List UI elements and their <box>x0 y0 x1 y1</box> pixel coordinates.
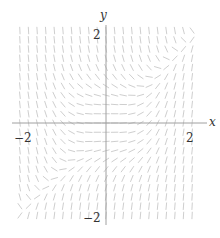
slope-segment <box>54 37 55 44</box>
slope-segment <box>129 149 135 152</box>
slope-segment <box>45 74 47 80</box>
slope-segment <box>69 140 75 143</box>
slope-segment <box>79 185 81 191</box>
y-axis-label: y <box>100 9 107 21</box>
slope-segment <box>172 47 177 51</box>
slope-segment <box>88 46 89 52</box>
slope-segment <box>45 37 46 44</box>
slope-segment <box>87 167 91 172</box>
slope-segment <box>70 176 73 182</box>
slope-segment <box>87 65 90 71</box>
slope-segment <box>114 212 115 219</box>
slope-segment <box>148 46 150 52</box>
slope-segment <box>130 74 135 79</box>
slope-segment <box>19 194 21 200</box>
slope-segment <box>71 203 72 210</box>
slope-segment <box>51 178 57 180</box>
x-axis-label: x <box>209 116 216 128</box>
slope-segment <box>140 46 141 52</box>
slope-segment <box>36 203 38 209</box>
slope-segment <box>173 56 178 61</box>
slope-segment <box>54 27 55 34</box>
slope-segment <box>131 37 132 44</box>
slope-segment <box>129 140 135 142</box>
slope-segment <box>165 138 167 144</box>
slope-segment <box>87 175 90 181</box>
slope-field-plot <box>0 0 220 238</box>
slope-segment <box>68 160 75 161</box>
slope-segment <box>148 184 149 190</box>
slope-segment <box>54 46 55 53</box>
slope-segment <box>86 158 92 161</box>
slope-segment <box>174 101 175 107</box>
slope-segment <box>88 27 89 34</box>
slope-segment <box>71 194 72 200</box>
slope-segment <box>18 204 22 209</box>
slope-segment <box>156 157 158 163</box>
slope-segment <box>183 110 184 117</box>
slope-segment <box>166 27 167 34</box>
slope-segment <box>183 166 184 173</box>
slope-segment <box>77 113 83 115</box>
slope-segment <box>174 83 176 89</box>
slope-segment <box>77 141 84 142</box>
slope-segment <box>45 27 46 34</box>
slope-segment <box>174 184 175 191</box>
slope-segment <box>62 64 64 70</box>
slope-segment <box>69 131 75 134</box>
slope-segment <box>123 46 124 52</box>
slope-segment <box>165 92 167 98</box>
slope-segment <box>138 149 143 153</box>
slope-segment <box>87 74 91 79</box>
slope-segment <box>165 101 167 107</box>
slope-segment <box>156 83 160 88</box>
slope-segment <box>157 37 158 43</box>
slope-segment <box>183 74 184 80</box>
slope-segment <box>53 185 57 191</box>
slope-segment <box>148 166 151 172</box>
slope-segment <box>166 212 167 219</box>
slope-segment <box>70 185 72 191</box>
slope-segment <box>129 158 134 162</box>
slope-segment <box>95 84 101 88</box>
slope-segment <box>174 92 176 98</box>
slope-segment <box>28 83 29 90</box>
slope-segment <box>96 65 99 71</box>
slope-segment <box>20 157 21 164</box>
slope-segment <box>183 184 184 191</box>
slope-segment <box>148 175 150 181</box>
slope-segment <box>165 129 167 135</box>
slope-segment <box>69 83 73 88</box>
slope-segment <box>36 175 39 181</box>
slope-segment <box>78 74 82 80</box>
slope-segment <box>69 93 74 97</box>
slope-segment <box>63 37 64 44</box>
slope-segment <box>20 147 21 154</box>
slope-segment <box>147 157 150 163</box>
slope-segment <box>183 129 184 136</box>
slope-segment <box>45 55 46 62</box>
slope-segment <box>147 139 151 144</box>
slope-segment <box>54 55 55 61</box>
slope-segment <box>63 212 64 219</box>
slope-segment <box>121 167 125 172</box>
slope-segment <box>80 194 81 200</box>
slope-segment <box>71 37 72 44</box>
slope-segment <box>138 75 143 79</box>
slope-segment <box>132 212 133 219</box>
slope-segment <box>174 148 175 154</box>
slope-segment <box>68 150 74 152</box>
slope-segment <box>192 147 193 154</box>
slope-segment <box>146 85 152 88</box>
slope-segment <box>166 37 167 43</box>
slope-segment <box>45 101 47 107</box>
slope-segment <box>157 194 158 201</box>
slope-segment <box>149 37 150 44</box>
slope-segment <box>122 185 124 191</box>
slope-segment <box>114 203 115 210</box>
slope-segment <box>131 55 133 61</box>
slope-segment <box>70 64 72 70</box>
slope-segment <box>53 111 56 117</box>
slope-segment <box>192 110 193 117</box>
slope-segment <box>113 65 116 71</box>
